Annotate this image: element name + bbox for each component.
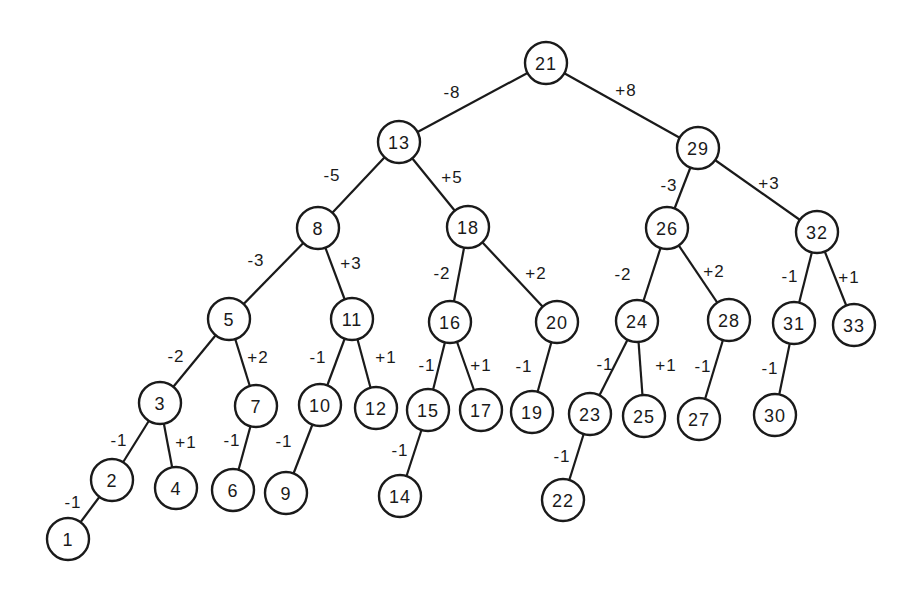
tree-node-16: 16: [429, 301, 471, 343]
node-label: 14: [389, 487, 411, 507]
node-label: 26: [656, 219, 678, 239]
node-label: 15: [417, 401, 439, 421]
tree-node-8: 8: [297, 207, 339, 249]
edge-label: -2: [614, 265, 631, 284]
tree-node-2: 2: [91, 459, 133, 501]
tree-node-4: 4: [155, 467, 197, 509]
edge-label: -1: [553, 447, 570, 466]
node-label: 25: [633, 407, 655, 427]
tree-node-21: 21: [525, 42, 567, 84]
edge-label: -1: [515, 357, 532, 376]
node-label: 30: [764, 406, 786, 426]
node-label: 20: [546, 313, 568, 333]
edge-label: +1: [838, 268, 859, 287]
edge-21-29: [546, 63, 698, 148]
node-label: 21: [535, 54, 557, 74]
tree-node-30: 30: [754, 394, 796, 436]
node-label: 7: [250, 397, 261, 417]
tree-node-18: 18: [447, 206, 489, 248]
node-label: 5: [223, 310, 234, 330]
node-label: 22: [552, 491, 574, 511]
tree-node-5: 5: [208, 298, 250, 340]
edge-label: -8: [443, 83, 460, 102]
tree-node-31: 31: [773, 302, 815, 344]
node-label: 24: [626, 312, 648, 332]
edge-label: +1: [655, 356, 676, 375]
edge-label: -1: [64, 493, 81, 512]
node-label: 33: [843, 316, 865, 336]
edge-label: -3: [660, 176, 677, 195]
edge-label: -1: [110, 431, 127, 450]
tree-node-6: 6: [212, 469, 254, 511]
edge-label: -1: [781, 267, 798, 286]
node-label: 32: [806, 223, 828, 243]
node-label: 1: [62, 530, 73, 550]
edge-label: +8: [615, 81, 636, 100]
tree-node-33: 33: [833, 304, 875, 346]
tree-node-26: 26: [646, 207, 688, 249]
edge-label: -1: [309, 348, 326, 367]
tree-node-7: 7: [235, 385, 277, 427]
edge-label: -5: [323, 166, 340, 185]
tree-node-1: 1: [47, 518, 89, 560]
tree-diagram: -8+8-5+5-3+3-3+3-2+2-2+2-1+1-2+2-1+1-1+1…: [0, 0, 922, 610]
node-label: 11: [342, 310, 363, 330]
edge-labels-layer: -8+8-5+5-3+3-3+3-2+2-2+2-1+1-2+2-1+1-1+1…: [64, 81, 859, 512]
tree-node-29: 29: [677, 127, 719, 169]
node-label: 10: [309, 396, 331, 416]
edge-label: +1: [175, 433, 196, 452]
edge-label: +2: [247, 348, 268, 367]
edge-label: -1: [275, 432, 292, 451]
node-label: 9: [280, 484, 291, 504]
edge-21-13: [399, 63, 546, 142]
node-label: 3: [154, 394, 165, 414]
tree-node-9: 9: [265, 472, 307, 514]
node-label: 2: [106, 471, 117, 491]
tree-node-11: 11: [331, 298, 373, 340]
tree-node-20: 20: [536, 301, 578, 343]
edge-label: -1: [391, 441, 408, 460]
edge-label: +1: [470, 356, 491, 375]
edge-label: +2: [525, 264, 546, 283]
tree-node-12: 12: [355, 387, 397, 429]
tree-node-25: 25: [623, 395, 665, 437]
edge-label: -1: [694, 357, 711, 376]
tree-node-15: 15: [407, 389, 449, 431]
edge-label: -3: [247, 251, 264, 270]
node-label: 12: [365, 399, 387, 419]
node-label: 31: [783, 314, 805, 334]
edge-label: -1: [761, 359, 778, 378]
tree-node-24: 24: [616, 300, 658, 342]
node-label: 18: [457, 218, 479, 238]
edge-label: +3: [758, 174, 779, 193]
node-label: 8: [312, 219, 323, 239]
edge-label: -1: [596, 355, 613, 374]
node-label: 28: [718, 311, 740, 331]
tree-node-13: 13: [378, 121, 420, 163]
edge-label: +2: [703, 262, 724, 281]
node-label: 13: [388, 133, 410, 153]
node-label: 16: [439, 313, 461, 333]
edge-label: -2: [433, 264, 450, 283]
tree-node-32: 32: [796, 211, 838, 253]
edge-label: +5: [441, 168, 462, 187]
edge-label: -1: [418, 356, 435, 375]
tree-node-3: 3: [139, 382, 181, 424]
tree-node-10: 10: [299, 384, 341, 426]
edge-label: +1: [375, 348, 396, 367]
node-label: 4: [170, 479, 181, 499]
node-label: 29: [687, 139, 709, 159]
tree-node-17: 17: [460, 389, 502, 431]
tree-node-23: 23: [569, 393, 611, 435]
node-label: 19: [521, 403, 543, 423]
edge-label: +3: [340, 254, 361, 273]
edge-label: -1: [223, 431, 240, 450]
tree-node-19: 19: [511, 391, 553, 433]
tree-node-22: 22: [542, 479, 584, 521]
node-label: 17: [470, 401, 492, 421]
edge-label: -2: [167, 347, 184, 366]
node-label: 6: [227, 481, 238, 501]
nodes-layer: 2113298182632511162024283133371012151719…: [47, 42, 875, 560]
tree-node-27: 27: [678, 398, 720, 440]
tree-node-28: 28: [708, 299, 750, 341]
